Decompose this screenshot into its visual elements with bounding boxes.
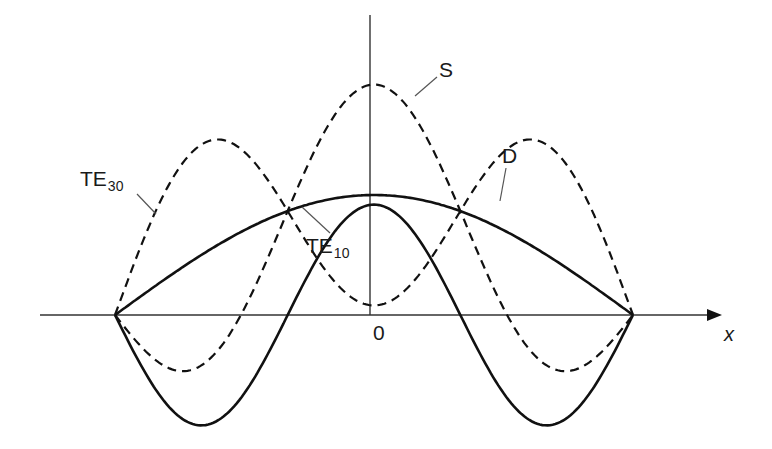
- origin-label: 0: [373, 322, 385, 343]
- label-s-text: S: [439, 58, 453, 81]
- x-axis-label: x: [724, 324, 734, 344]
- leader-d: [500, 168, 506, 201]
- leader-te30: [137, 194, 156, 214]
- x-axis-label-text: x: [724, 323, 734, 345]
- label-te10-sub: 10: [334, 245, 350, 261]
- mode-diagram: TE30 TE10 S D 0 x: [0, 0, 772, 449]
- label-te30-sub: 30: [108, 178, 124, 194]
- label-d-text: D: [502, 144, 517, 167]
- diagram-canvas: [0, 0, 772, 449]
- leader-te10: [302, 207, 330, 233]
- origin-label-text: 0: [373, 321, 385, 344]
- label-s: S: [439, 59, 453, 80]
- curve-te10: [115, 195, 633, 315]
- label-te10: TE10: [306, 235, 349, 260]
- label-te10-base: TE: [306, 234, 333, 257]
- label-te30-base: TE: [80, 167, 107, 190]
- curve-d: [115, 140, 633, 316]
- x-axis-arrow-icon: [707, 309, 722, 321]
- label-te30: TE30: [80, 168, 123, 193]
- label-d: D: [502, 145, 517, 166]
- leader-s: [415, 77, 437, 96]
